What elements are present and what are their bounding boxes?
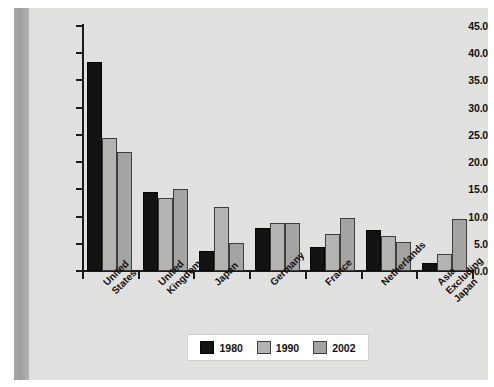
mid-gray-swatch (313, 341, 327, 354)
plot-area: 0.05.010.015.020.025.030.035.040.045.0 U… (29, 8, 488, 380)
y-axis-tick-label: 35.0 (440, 74, 488, 86)
legend-label: 1990 (276, 342, 299, 354)
y-axis-tick-label: 25.0 (440, 129, 488, 141)
x-axis-tick-mark (82, 272, 84, 279)
y-axis-tick-label: 20.0 (440, 156, 488, 168)
y-axis-tick-mark (76, 79, 82, 81)
bar-1980-united-states (87, 62, 102, 271)
light-gray-swatch (257, 341, 271, 354)
x-axis-tick-mark (416, 272, 418, 279)
legend-item-1980: 1980 (200, 341, 242, 354)
y-axis-tick-mark (76, 161, 82, 163)
bar-2002-united-states (117, 152, 132, 271)
y-axis-line (82, 24, 84, 273)
y-axis-tick-mark (76, 52, 82, 54)
bar-1980-japan (199, 251, 214, 271)
bar-1980-netherlands (366, 230, 381, 271)
y-axis-tick-label: 40.0 (440, 47, 488, 59)
x-axis-tick-mark (249, 272, 251, 279)
scanned-page: 0.05.010.015.020.025.030.035.040.045.0 U… (0, 0, 494, 387)
y-axis-tick-mark (76, 134, 82, 136)
y-axis-tick-label: 15.0 (440, 183, 488, 195)
y-axis-tick-mark (76, 107, 82, 109)
chart-legend: 198019902002 (187, 334, 369, 361)
y-axis-tick-mark (76, 188, 82, 190)
legend-item-1990: 1990 (257, 341, 299, 354)
bar-1980-united-kingdom (143, 192, 158, 271)
bar-1980-france (310, 247, 325, 271)
scan-gutter-shadow (14, 8, 29, 380)
y-axis-tick-mark (76, 243, 82, 245)
bar-1990-united-states (102, 138, 117, 271)
x-axis-tick-mark (361, 272, 363, 279)
y-axis-tick-mark (76, 216, 82, 218)
bar-1990-united-kingdom (158, 198, 173, 271)
bar-1980-asia-excluding-japan (422, 263, 437, 271)
y-axis-tick-mark (76, 25, 82, 27)
x-axis-tick-mark (305, 272, 307, 279)
y-axis-tick-label: 45.0 (440, 20, 488, 32)
bar-1980-germany (255, 228, 270, 271)
legend-item-2002: 2002 (313, 341, 355, 354)
y-axis-tick-label: 30.0 (440, 102, 488, 114)
legend-label: 2002 (332, 342, 355, 354)
bar-1990-japan (214, 207, 229, 271)
legend-label: 1980 (219, 342, 242, 354)
black-swatch (200, 341, 214, 354)
chart-figure: 0.05.010.015.020.025.030.035.040.045.0 U… (29, 8, 488, 380)
